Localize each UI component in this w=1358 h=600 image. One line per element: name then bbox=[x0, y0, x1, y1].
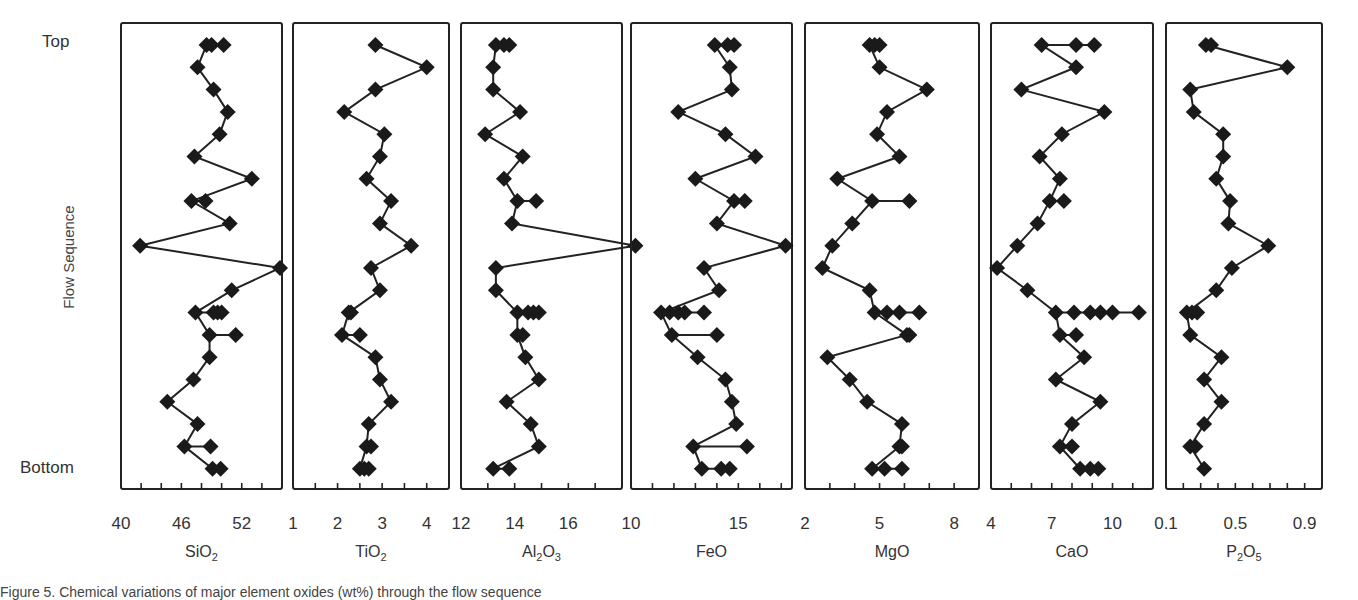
tick-label: 10 bbox=[622, 514, 641, 533]
panel-tio2: 1234TiO2 bbox=[288, 23, 449, 563]
data-point-diamond-icon bbox=[696, 305, 712, 321]
data-point-diamond-icon bbox=[206, 82, 222, 98]
panel-cao: 4710CaO bbox=[986, 23, 1153, 560]
data-point-diamond-icon bbox=[372, 215, 388, 231]
data-point-diamond-icon bbox=[894, 461, 910, 477]
data-point-diamond-icon bbox=[894, 438, 910, 454]
data-point-diamond-icon bbox=[1013, 82, 1029, 98]
panel-frame bbox=[631, 23, 792, 489]
data-point-diamond-icon bbox=[419, 59, 435, 75]
profile-line bbox=[997, 45, 1139, 469]
data-point-diamond-icon bbox=[1215, 149, 1231, 165]
data-point-diamond-icon bbox=[1222, 193, 1238, 209]
tick-label: 40 bbox=[112, 514, 131, 533]
data-point-diamond-icon bbox=[1182, 327, 1198, 343]
data-point-diamond-icon bbox=[531, 438, 547, 454]
tick-label: 1 bbox=[288, 514, 297, 533]
x-axis-label-cao: CaO bbox=[1056, 543, 1089, 560]
tick-label: 0.1 bbox=[1154, 514, 1178, 533]
data-point-diamond-icon bbox=[728, 416, 744, 432]
tick-label: 10 bbox=[1103, 514, 1122, 533]
profile-line bbox=[342, 45, 427, 469]
data-point-diamond-icon bbox=[687, 171, 703, 187]
tick-label: 0.9 bbox=[1293, 514, 1317, 533]
data-point-diamond-icon bbox=[879, 104, 895, 120]
data-point-diamond-icon bbox=[189, 416, 205, 432]
data-point-diamond-icon bbox=[739, 438, 755, 454]
data-point-diamond-icon bbox=[1096, 104, 1112, 120]
data-point-diamond-icon bbox=[213, 461, 229, 477]
data-point-diamond-icon bbox=[1090, 461, 1106, 477]
tick-label: 16 bbox=[559, 514, 578, 533]
data-point-diamond-icon bbox=[488, 260, 504, 276]
tick-label: 4 bbox=[422, 514, 431, 533]
data-point-diamond-icon bbox=[202, 349, 218, 365]
data-point-diamond-icon bbox=[183, 193, 199, 209]
data-point-diamond-icon bbox=[477, 126, 493, 142]
data-point-diamond-icon bbox=[911, 305, 927, 321]
data-point-diamond-icon bbox=[352, 327, 368, 343]
x-axis-label-sio2: SiO2 bbox=[185, 543, 218, 563]
data-point-diamond-icon bbox=[531, 372, 547, 388]
data-point-diamond-icon bbox=[829, 171, 845, 187]
data-point-diamond-icon bbox=[694, 461, 710, 477]
tick-label: 2 bbox=[800, 514, 809, 533]
tick-label: 3 bbox=[377, 514, 386, 533]
data-point-diamond-icon bbox=[363, 260, 379, 276]
x-axis-label-al2o3: Al2O3 bbox=[522, 543, 561, 563]
tick-label: 12 bbox=[452, 514, 471, 533]
tick-label: 15 bbox=[729, 514, 748, 533]
panel-feo: 1015FeO bbox=[622, 23, 794, 560]
data-point-diamond-icon bbox=[901, 327, 917, 343]
data-point-diamond-icon bbox=[862, 282, 878, 298]
data-point-diamond-icon bbox=[224, 282, 240, 298]
data-point-diamond-icon bbox=[244, 171, 260, 187]
data-point-diamond-icon bbox=[220, 104, 236, 120]
tick-label: 0.5 bbox=[1224, 514, 1248, 533]
data-point-diamond-icon bbox=[1068, 37, 1084, 53]
data-point-diamond-icon bbox=[509, 193, 525, 209]
data-point-diamond-icon bbox=[367, 349, 383, 365]
data-point-diamond-icon bbox=[517, 349, 533, 365]
data-point-diamond-icon bbox=[717, 126, 733, 142]
data-point-diamond-icon bbox=[403, 238, 419, 254]
data-point-diamond-icon bbox=[228, 327, 244, 343]
tick-label: 8 bbox=[949, 514, 958, 533]
data-point-diamond-icon bbox=[1068, 327, 1084, 343]
data-point-diamond-icon bbox=[872, 59, 888, 75]
data-point-diamond-icon bbox=[367, 37, 383, 53]
tick-label: 7 bbox=[1047, 514, 1056, 533]
data-point-diamond-icon bbox=[709, 327, 725, 343]
data-point-diamond-icon bbox=[1260, 238, 1276, 254]
data-point-diamond-icon bbox=[1208, 282, 1224, 298]
data-point-diamond-icon bbox=[748, 149, 764, 165]
data-point-diamond-icon bbox=[1068, 59, 1084, 75]
data-point-diamond-icon bbox=[1208, 171, 1224, 187]
data-point-diamond-icon bbox=[376, 126, 392, 142]
data-point-diamond-icon bbox=[367, 82, 383, 98]
data-point-diamond-icon bbox=[1105, 305, 1121, 321]
tick-label: 14 bbox=[505, 514, 524, 533]
panel-frame bbox=[461, 23, 622, 489]
data-point-diamond-icon bbox=[901, 193, 917, 209]
x-axis-label-feo: FeO bbox=[696, 543, 727, 560]
data-point-diamond-icon bbox=[722, 59, 738, 75]
data-point-diamond-icon bbox=[216, 37, 232, 53]
data-point-diamond-icon bbox=[724, 394, 740, 410]
data-point-diamond-icon bbox=[189, 59, 205, 75]
data-point-diamond-icon bbox=[894, 416, 910, 432]
panel-p2o5: 0.10.50.9P2O5 bbox=[1154, 23, 1322, 563]
data-point-diamond-icon bbox=[485, 59, 501, 75]
data-point-diamond-icon bbox=[919, 82, 935, 98]
panel-frame bbox=[805, 23, 979, 489]
data-point-diamond-icon bbox=[724, 82, 740, 98]
data-point-diamond-icon bbox=[1066, 305, 1082, 321]
data-point-diamond-icon bbox=[202, 327, 218, 343]
x-axis-label-tio2: TiO2 bbox=[355, 543, 386, 563]
data-point-diamond-icon bbox=[709, 215, 725, 231]
profile-line bbox=[1187, 45, 1288, 469]
data-point-diamond-icon bbox=[1196, 461, 1212, 477]
data-point-diamond-icon bbox=[485, 461, 501, 477]
data-point-diamond-icon bbox=[814, 260, 830, 276]
panel-al2o3: 121416Al2O3 bbox=[452, 23, 644, 563]
